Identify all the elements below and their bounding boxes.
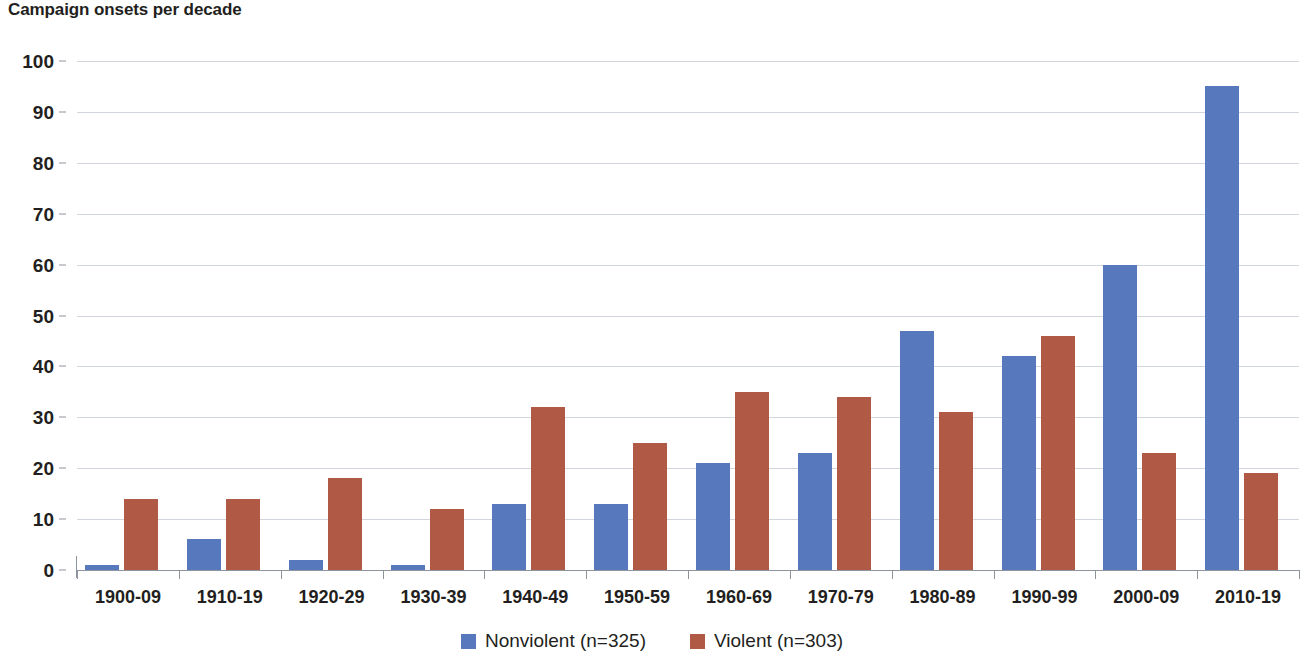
y-tick-mark — [59, 61, 66, 62]
y-tick-label: 100 — [22, 52, 54, 71]
x-axis: 1900-091910-191920-291930-391940-491950-… — [77, 570, 1299, 615]
y-tick-label: 90 — [33, 102, 54, 121]
y-tick-label: 60 — [33, 255, 54, 274]
y-tick-label: 20 — [33, 459, 54, 478]
bar-violent[interactable] — [1142, 453, 1176, 570]
y-tick-mark — [59, 468, 66, 469]
bar-violent[interactable] — [1244, 473, 1278, 570]
bar-nonviolent[interactable] — [187, 539, 221, 570]
y-tick-mark — [59, 162, 66, 163]
legend-entry[interactable]: Violent (n=303) — [690, 630, 843, 652]
bar-nonviolent[interactable] — [594, 504, 628, 570]
legend-swatch-icon — [690, 634, 705, 649]
bar-group — [1095, 61, 1197, 570]
bar-group — [892, 61, 994, 570]
bar-nonviolent[interactable] — [900, 331, 934, 570]
bar-violent[interactable] — [633, 443, 667, 570]
x-tick-label: 2010-19 — [1215, 587, 1281, 608]
x-tick-label: 1980-89 — [910, 587, 976, 608]
y-tick-label: 30 — [33, 408, 54, 427]
y-tick-label: 40 — [33, 357, 54, 376]
bar-group — [383, 61, 485, 570]
bar-group — [1197, 61, 1299, 570]
x-tick-mark — [688, 570, 689, 579]
x-tick-mark — [1299, 570, 1300, 579]
bar-nonviolent[interactable] — [492, 504, 526, 570]
x-tick-label: 1990-99 — [1011, 587, 1077, 608]
chart-legend: Nonviolent (n=325)Violent (n=303) — [0, 630, 1304, 652]
y-tick-mark — [59, 519, 66, 520]
bar-nonviolent[interactable] — [1002, 356, 1036, 570]
y-axis: 1009080706050403020100 — [0, 61, 66, 570]
y-tick-label: 70 — [33, 204, 54, 223]
bar-violent[interactable] — [531, 407, 565, 570]
x-tick-mark — [1095, 570, 1096, 579]
x-tick-mark — [892, 570, 893, 579]
x-tick-mark — [790, 570, 791, 579]
y-tick-label: 50 — [33, 306, 54, 325]
legend-label: Violent (n=303) — [714, 630, 843, 652]
x-tick-label: 1920-29 — [299, 587, 365, 608]
bar-nonviolent[interactable] — [798, 453, 832, 570]
bar-chart: Campaign onsets per decade 1009080706050… — [0, 0, 1304, 664]
bar-violent[interactable] — [837, 397, 871, 570]
bar-nonviolent[interactable] — [1103, 265, 1137, 570]
bar-group — [994, 61, 1096, 570]
x-tick-label: 1970-79 — [808, 587, 874, 608]
x-tick-label: 1930-39 — [400, 587, 466, 608]
y-tick-mark — [59, 264, 66, 265]
x-tick-mark — [994, 570, 995, 579]
bar-violent[interactable] — [430, 509, 464, 570]
x-tick-label: 1940-49 — [502, 587, 568, 608]
y-tick-mark — [59, 315, 66, 316]
y-tick-label: 80 — [33, 153, 54, 172]
legend-label: Nonviolent (n=325) — [485, 630, 646, 652]
chart-title: Campaign onsets per decade — [8, 0, 242, 20]
y-tick-mark — [59, 417, 66, 418]
bar-group — [77, 61, 179, 570]
bar-nonviolent[interactable] — [696, 463, 730, 570]
bar-group — [688, 61, 790, 570]
x-tick-mark — [77, 570, 78, 579]
bar-nonviolent[interactable] — [289, 560, 323, 570]
x-tick-mark — [484, 570, 485, 579]
x-tick-mark — [281, 570, 282, 579]
bar-violent[interactable] — [124, 499, 158, 570]
x-tick-label: 1910-19 — [197, 587, 263, 608]
plot-area — [77, 61, 1299, 570]
legend-swatch-icon — [461, 634, 476, 649]
bar-violent[interactable] — [226, 499, 260, 570]
bar-group — [586, 61, 688, 570]
x-tick-mark — [179, 570, 180, 579]
y-tick-mark — [59, 366, 66, 367]
y-tick-label: 10 — [33, 510, 54, 529]
y-tick-mark — [59, 570, 66, 571]
legend-entry[interactable]: Nonviolent (n=325) — [461, 630, 646, 652]
bar-violent[interactable] — [1041, 336, 1075, 570]
x-tick-label: 1950-59 — [604, 587, 670, 608]
x-tick-label: 1900-09 — [95, 587, 161, 608]
x-tick-label: 1960-69 — [706, 587, 772, 608]
bar-group — [179, 61, 281, 570]
bar-violent[interactable] — [939, 412, 973, 570]
bar-group — [281, 61, 383, 570]
y-tick-label: 0 — [43, 561, 54, 580]
bar-nonviolent[interactable] — [1205, 86, 1239, 570]
bar-group — [790, 61, 892, 570]
x-tick-mark — [586, 570, 587, 579]
x-tick-label: 2000-09 — [1113, 587, 1179, 608]
bar-violent[interactable] — [328, 478, 362, 570]
y-tick-mark — [59, 213, 66, 214]
y-tick-mark — [59, 111, 66, 112]
x-tick-mark — [1197, 570, 1198, 579]
bar-violent[interactable] — [735, 392, 769, 570]
bar-group — [484, 61, 586, 570]
x-tick-mark — [383, 570, 384, 579]
